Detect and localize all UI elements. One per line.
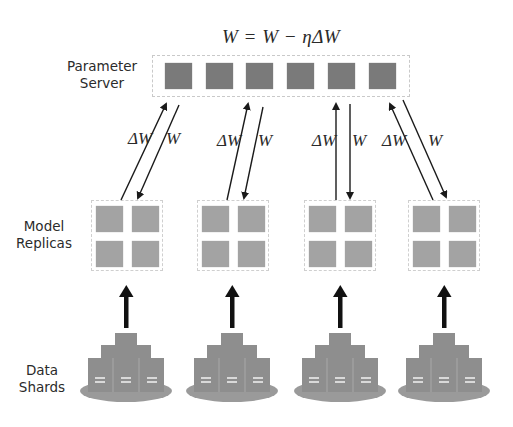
model-replica-2 — [197, 200, 269, 271]
pull-weights-arrow — [244, 107, 263, 198]
replica-block — [309, 206, 336, 232]
data-feed-arrows — [119, 285, 452, 328]
push-gradient-arrow — [390, 104, 433, 200]
push-gradient-arrow — [121, 104, 166, 200]
replica-block — [345, 206, 372, 232]
update-equation: W = W − ηΔW — [222, 26, 340, 48]
data-shard-4 — [398, 333, 490, 402]
parameter-block — [246, 63, 273, 89]
model-replica-3 — [304, 200, 376, 271]
replica-block — [449, 241, 476, 267]
replica-block — [413, 241, 440, 267]
label-line: Replicas — [2, 235, 86, 252]
data-shard-3 — [294, 333, 386, 402]
replica-block — [202, 241, 229, 267]
w-label-3: W — [352, 131, 366, 151]
delta-w-label-3: ΔW — [312, 131, 336, 151]
label-line: Shards — [6, 379, 78, 396]
parameter-block — [287, 63, 314, 89]
model-replica-4 — [408, 200, 480, 271]
parameter-block — [165, 63, 192, 89]
delta-w-label-4: ΔW — [382, 131, 406, 151]
replica-block — [132, 241, 159, 267]
replica-block — [345, 241, 372, 267]
parameter-server-label: Parameter Server — [52, 58, 152, 92]
replica-block — [202, 206, 229, 232]
replica-block — [449, 206, 476, 232]
replica-block — [96, 206, 123, 232]
replica-block — [413, 206, 440, 232]
replica-block — [309, 241, 336, 267]
replica-block — [238, 206, 265, 232]
label-line: Data — [6, 362, 78, 379]
data-shard-1 — [80, 333, 172, 402]
w-label-1: W — [166, 129, 180, 149]
delta-w-label-1: ΔW — [128, 129, 152, 149]
label-line: Server — [52, 75, 152, 92]
pull-weights-arrow — [138, 105, 179, 198]
delta-w-label-2: ΔW — [217, 131, 241, 151]
model-replica-1 — [91, 200, 163, 271]
parameter-block — [328, 63, 355, 89]
parameter-server-diagram: W = W − ηΔW Parameter Server Model Repli… — [0, 0, 513, 427]
data-shards-label: Data Shards — [6, 362, 78, 396]
w-label-2: W — [258, 131, 272, 151]
parameter-block — [369, 63, 396, 89]
replica-block — [238, 241, 265, 267]
model-replicas-label: Model Replicas — [2, 218, 86, 252]
data-shard-2 — [186, 333, 278, 402]
label-line: Model — [2, 218, 86, 235]
w-label-4: W — [428, 131, 442, 151]
label-line: Parameter — [52, 58, 152, 75]
replica-block — [132, 206, 159, 232]
parameter-block — [206, 63, 233, 89]
replica-block — [96, 241, 123, 267]
push-gradient-arrow — [227, 104, 248, 200]
